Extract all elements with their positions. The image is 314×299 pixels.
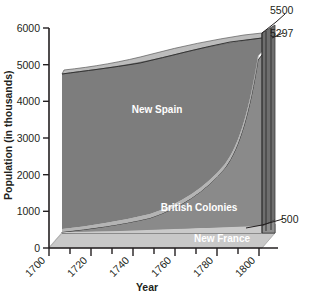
x-tick-label-1740: 1740 (106, 254, 131, 279)
y-tick-label-3000: 3000 (17, 132, 41, 144)
series-label-british-colonies: British Colonies (161, 202, 238, 213)
x-tick-label-1720: 1720 (64, 254, 89, 279)
callout-label-5500: 5500 (270, 4, 294, 16)
series-label-new-spain: New Spain (132, 104, 183, 115)
x-tick-label-1700: 1700 (22, 254, 47, 279)
y-axis-title: Population (in thousands) (2, 71, 14, 201)
x-tick-label-1760: 1760 (148, 254, 173, 279)
series-label-new-france: New France (194, 233, 251, 244)
y-tick-label-5000: 5000 (17, 59, 41, 71)
right-side-face-upper (262, 25, 275, 226)
y-tick-label-2000: 2000 (17, 169, 41, 181)
callout-label-500: 500 (281, 213, 299, 225)
callout-label-5297: 5297 (270, 27, 294, 39)
population-area-chart: 6000 5000 4000 3000 2000 1000 0 Populati… (0, 0, 314, 299)
x-tick-label-1780: 1780 (190, 254, 215, 279)
y-tick-label-0: 0 (34, 242, 40, 254)
y-tick-label-4000: 4000 (17, 95, 41, 107)
x-axis-title: Year (136, 281, 158, 293)
y-tick-label-1000: 1000 (17, 205, 41, 217)
y-tick-label-6000: 6000 (17, 22, 41, 34)
x-tick-label-1800: 1800 (232, 254, 257, 279)
chart-container: 6000 5000 4000 3000 2000 1000 0 Populati… (0, 0, 314, 299)
